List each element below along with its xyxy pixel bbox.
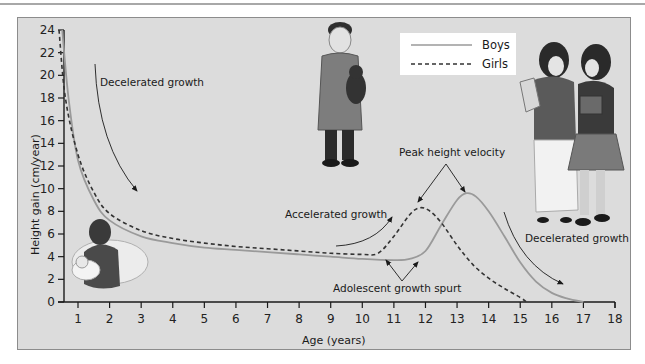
x-tick-label: 16 [544, 312, 559, 326]
x-tick-label: 2 [106, 312, 114, 326]
annotation-peak-height-velocity: Peak height velocity [399, 146, 505, 158]
arrow-accelerated [336, 217, 392, 246]
y-tick-label: 20 [40, 68, 55, 82]
y-tick-label: 16 [40, 114, 55, 128]
y-tick-label: 4 [47, 250, 55, 264]
x-tick-label: 15 [513, 312, 528, 326]
y-axis: 024681012141618202224 [40, 23, 64, 309]
y-tick-label: 12 [40, 159, 55, 173]
legend: Boys Girls [400, 33, 516, 75]
annotation-decelerated-growth-late: Decelerated growth [525, 232, 629, 244]
arrow-decelerated-late [504, 212, 563, 284]
arrow-spurt-boys [402, 262, 418, 281]
x-tick-label: 6 [232, 312, 240, 326]
arrow-peak-girls [418, 164, 446, 202]
legend-girls-label: Girls [482, 57, 508, 71]
y-tick-label: 24 [40, 23, 55, 37]
x-tick-label: 4 [169, 312, 177, 326]
x-tick-label: 8 [295, 312, 303, 326]
legend-boys-label: Boys [482, 38, 510, 52]
x-tick-label: 9 [327, 312, 335, 326]
x-tick-label: 12 [418, 312, 433, 326]
x-tick-label: 3 [137, 312, 145, 326]
x-tick-label: 11 [386, 312, 401, 326]
y-tick-label: 18 [40, 91, 55, 105]
annotation-accelerated-growth: Accelerated growth [285, 208, 387, 220]
annotation-decelerated-growth-early: Decelerated growth [100, 76, 204, 88]
growth-velocity-chart: Boys Girls 024681012141618202224 1234567… [0, 0, 645, 364]
boy-with-teddy-bear-illustration [318, 22, 366, 167]
y-tick-label: 8 [47, 204, 55, 218]
x-tick-label: 5 [201, 312, 209, 326]
x-tick-label: 10 [355, 312, 370, 326]
x-tick-label: 13 [449, 312, 464, 326]
x-tick-label: 18 [607, 312, 622, 326]
two-teenage-girls-illustration [520, 42, 624, 226]
arrow-spurt-girls [386, 260, 402, 281]
y-tick-label: 6 [47, 227, 55, 241]
x-tick-label: 14 [481, 312, 496, 326]
y-tick-label: 14 [40, 136, 55, 150]
x-tick-label: 7 [264, 312, 272, 326]
x-tick-label: 1 [74, 312, 82, 326]
y-axis-title: Height gain (cm/year) [29, 134, 42, 255]
y-tick-label: 22 [40, 46, 55, 60]
y-tick-label: 0 [47, 295, 55, 309]
arrow-peak-boys [446, 164, 465, 192]
y-tick-label: 2 [47, 272, 55, 286]
y-tick-label: 10 [40, 182, 55, 196]
annotation-adolescent-growth-spurt: Adolescent growth spurt [333, 282, 461, 294]
x-axis: 123456789101112131415161718 [58, 302, 623, 326]
x-axis-title: Age (years) [302, 334, 366, 347]
x-tick-label: 17 [576, 312, 591, 326]
